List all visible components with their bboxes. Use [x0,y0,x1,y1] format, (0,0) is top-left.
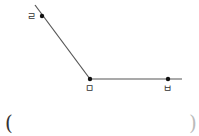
label-bieup: ㅂ [163,83,172,94]
answer-open-paren: ( [5,111,13,135]
point-bieup [166,77,170,81]
label-rieul: ㄹ [27,11,36,22]
point-rieul [40,14,44,18]
point-mieum [88,77,92,81]
label-mieum: ㅁ [85,83,94,94]
answer-close-paren: ) [189,111,197,135]
answer-blank[interactable] [18,112,186,132]
